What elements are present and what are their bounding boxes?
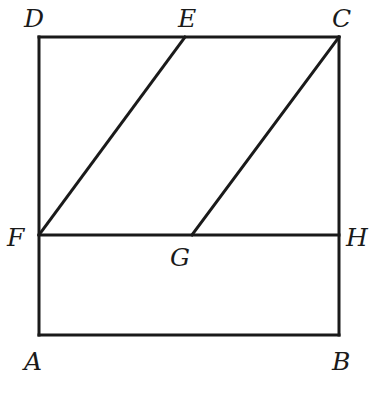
label-c: C bbox=[332, 4, 351, 33]
label-h: H bbox=[345, 223, 369, 252]
label-f: F bbox=[6, 223, 26, 252]
geometry-diagram: D E C F G H A B bbox=[0, 0, 381, 399]
label-d: D bbox=[23, 4, 44, 33]
label-e: E bbox=[177, 4, 196, 33]
segment-gc bbox=[192, 37, 339, 235]
label-g: G bbox=[170, 243, 190, 272]
label-a: A bbox=[22, 347, 42, 376]
label-b: B bbox=[331, 347, 350, 376]
segment-fe bbox=[39, 37, 185, 235]
